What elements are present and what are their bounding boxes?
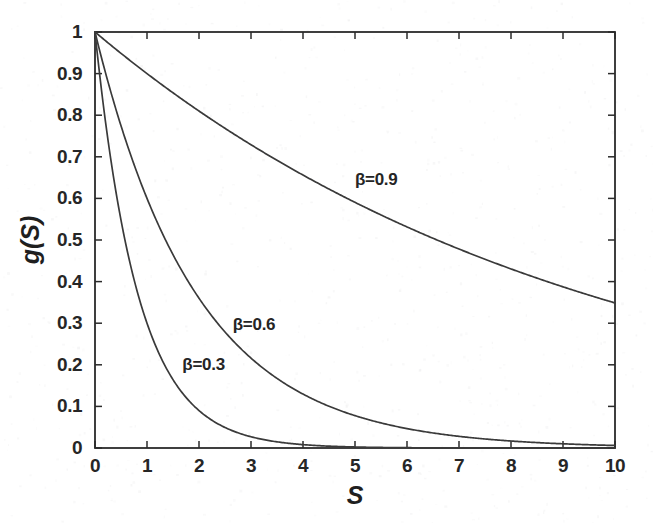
axis-tick-marks [95,32,615,448]
plot-frame-border [95,32,615,448]
curve-annotation-beta-0-9: β=0.9 [355,170,397,190]
plot-area [0,0,653,523]
data-curves [95,32,615,448]
figure-chart-gs-vs-s: 1 0.9 0.8 0.7 0.6 0.5 0.4 0.3 0.2 0.1 0 … [0,0,653,523]
curve-series-0 [95,32,615,303]
curve-series-2 [95,32,615,448]
curve-annotation-beta-0-3: β=0.3 [182,355,224,375]
curve-annotation-beta-0-6: β=0.6 [233,315,275,335]
curve-series-1 [95,32,615,445]
